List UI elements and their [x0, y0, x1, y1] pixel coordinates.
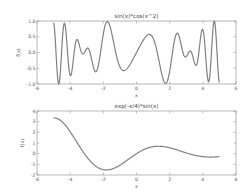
chart-title: sin(x)*cos(x^2) — [115, 13, 159, 19]
x-tick-label: 4 — [201, 86, 204, 91]
y-axis-label: f(x) — [20, 139, 25, 147]
x-tick-label: 2 — [168, 177, 171, 182]
y-tick-label: 1.0 — [28, 19, 35, 24]
y-tick-label: -1 — [31, 162, 36, 167]
y-tick-label: 0.0 — [28, 50, 35, 55]
x-tick-label: 6 — [235, 86, 238, 91]
y-tick-label: 0.5 — [28, 34, 35, 39]
x-tick-label: 6 — [235, 177, 238, 182]
x-tick-label: -6 — [35, 177, 40, 182]
x-tick-label: -2 — [101, 177, 106, 182]
y-tick-label: 2 — [33, 130, 36, 135]
y-tick-label: 3 — [33, 119, 36, 124]
y-tick-label: 4 — [33, 109, 36, 114]
x-tick-label: 4 — [201, 177, 204, 182]
x-tick-label: -2 — [101, 86, 106, 91]
y-tick-label: 1 — [33, 141, 36, 146]
x-tick-label: -4 — [68, 86, 73, 91]
x-tick-label: -4 — [68, 177, 73, 182]
figure: sin(x)*cos(x^2) 1.00.50.0-0.5-1.0 -6-4-2… — [0, 0, 250, 193]
x-tick-label: 0 — [135, 177, 138, 182]
x-axis-label: x — [135, 184, 138, 189]
chart-bottom: exp(-x/4)*sin(x) 43210-1-2 -6-4-20246 x … — [20, 103, 238, 189]
y-tick-label: -0.5 — [27, 66, 36, 71]
y-axis-label: f(x) — [16, 48, 21, 56]
y-tick-label: 0 — [33, 151, 36, 156]
x-tick-label: 2 — [168, 86, 171, 91]
x-tick-label: -6 — [35, 86, 40, 91]
x-tick-label: 0 — [135, 86, 138, 91]
chart-title: exp(-x/4)*sin(x) — [115, 103, 159, 110]
x-axis-label: x — [135, 93, 138, 98]
chart-top: sin(x)*cos(x^2) 1.00.50.0-0.5-1.0 -6-4-2… — [16, 13, 238, 98]
plot-area — [37, 111, 236, 175]
